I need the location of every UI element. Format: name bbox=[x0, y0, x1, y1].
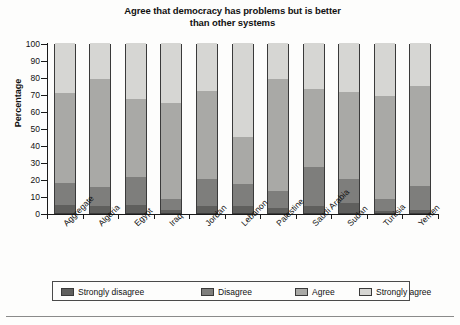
y-tick-label: 80 bbox=[16, 73, 40, 83]
y-tick-label: 60 bbox=[16, 107, 40, 117]
stacked-bar[interactable] bbox=[409, 44, 431, 214]
stacked-bar[interactable] bbox=[89, 44, 111, 214]
x-tick-mark bbox=[296, 214, 297, 219]
bar-segment[interactable] bbox=[268, 79, 288, 191]
legend-swatch bbox=[201, 288, 214, 296]
bar-segment[interactable] bbox=[55, 43, 75, 93]
chart-figure: Agree that democracy has problems but is… bbox=[0, 0, 460, 325]
y-tick-mark bbox=[41, 61, 47, 62]
stacked-bar[interactable] bbox=[54, 44, 76, 214]
y-tick-label: 70 bbox=[16, 90, 40, 100]
plot-area bbox=[47, 44, 438, 214]
y-tick-mark bbox=[41, 129, 47, 130]
bar-segment[interactable] bbox=[197, 91, 217, 179]
legend-swatch bbox=[359, 288, 372, 296]
bar-segment[interactable] bbox=[55, 93, 75, 183]
bar-segment[interactable] bbox=[161, 199, 181, 209]
y-tick-mark bbox=[41, 95, 47, 96]
legend-swatch bbox=[61, 288, 74, 296]
stacked-bar[interactable] bbox=[232, 44, 254, 214]
legend-item[interactable]: Disagree bbox=[201, 286, 252, 298]
bar-segment[interactable] bbox=[233, 137, 253, 185]
bar-segment[interactable] bbox=[375, 96, 395, 200]
bar-segment[interactable] bbox=[161, 103, 181, 200]
bar-segment[interactable] bbox=[161, 43, 181, 103]
page-divider bbox=[6, 316, 454, 317]
y-tick-mark bbox=[41, 78, 47, 79]
bar-segment[interactable] bbox=[339, 92, 359, 179]
stacked-bar[interactable] bbox=[374, 44, 396, 214]
y-tick-mark bbox=[41, 112, 47, 113]
bar-segment[interactable] bbox=[268, 43, 288, 79]
x-tick-mark bbox=[225, 214, 226, 219]
legend-label: Disagree bbox=[218, 287, 252, 297]
y-tick-mark bbox=[41, 180, 47, 181]
y-tick-label: 0 bbox=[16, 209, 40, 219]
y-tick-label: 20 bbox=[16, 175, 40, 185]
bar-segment[interactable] bbox=[90, 79, 110, 187]
x-tick-mark bbox=[154, 214, 155, 219]
chart-legend: Strongly disagreeDisagreeAgreeStrongly a… bbox=[52, 281, 410, 301]
stacked-bar[interactable] bbox=[125, 44, 147, 214]
y-tick-label: 10 bbox=[16, 192, 40, 202]
bar-segment[interactable] bbox=[197, 43, 217, 91]
legend-item[interactable]: Strongly agree bbox=[359, 286, 431, 298]
stacked-bar[interactable] bbox=[303, 44, 325, 214]
y-tick-label: 90 bbox=[16, 56, 40, 66]
stacked-bar[interactable] bbox=[196, 44, 218, 214]
y-tick-label: 50 bbox=[16, 124, 40, 134]
bar-segment[interactable] bbox=[233, 43, 253, 137]
bar-segment[interactable] bbox=[410, 186, 430, 210]
legend-label: Strongly disagree bbox=[78, 287, 144, 297]
bar-segment[interactable] bbox=[126, 43, 146, 99]
y-tick-label: 100 bbox=[16, 39, 40, 49]
legend-label: Strongly agree bbox=[376, 287, 431, 297]
bar-segment[interactable] bbox=[304, 89, 324, 167]
x-tick-mark bbox=[438, 214, 439, 219]
chart-title: Agree that democracy has problems but is… bbox=[60, 5, 405, 29]
y-tick-label: 30 bbox=[16, 158, 40, 168]
bar-segment[interactable] bbox=[339, 43, 359, 92]
x-tick-mark bbox=[189, 214, 190, 219]
bar-segment[interactable] bbox=[268, 191, 288, 208]
x-tick-mark bbox=[402, 214, 403, 219]
bar-segment[interactable] bbox=[90, 187, 110, 207]
y-tick-mark bbox=[41, 44, 47, 45]
bar-segment[interactable] bbox=[126, 99, 146, 177]
y-tick-label: 40 bbox=[16, 141, 40, 151]
bar-segment[interactable] bbox=[197, 179, 217, 206]
y-tick-mark bbox=[41, 197, 47, 198]
stacked-bar[interactable] bbox=[267, 44, 289, 214]
legend-item[interactable]: Agree bbox=[295, 286, 335, 298]
bar-segment[interactable] bbox=[410, 43, 430, 86]
bar-segment[interactable] bbox=[304, 167, 324, 206]
x-tick-mark bbox=[47, 214, 48, 219]
chart-title-line-2: than other systems bbox=[60, 17, 405, 29]
legend-swatch bbox=[295, 288, 308, 296]
legend-item[interactable]: Strongly disagree bbox=[61, 286, 144, 298]
bar-segment[interactable] bbox=[410, 86, 430, 186]
bar-segment[interactable] bbox=[233, 184, 253, 206]
y-axis-tick-labels: 0102030405060708090100 bbox=[10, 44, 40, 214]
bar-segment[interactable] bbox=[90, 43, 110, 79]
y-tick-mark bbox=[41, 163, 47, 164]
x-tick-mark bbox=[367, 214, 368, 219]
bar-segment[interactable] bbox=[126, 177, 146, 204]
x-tick-mark bbox=[331, 214, 332, 219]
x-tick-mark bbox=[260, 214, 261, 219]
x-tick-mark bbox=[118, 214, 119, 219]
bar-segment[interactable] bbox=[304, 43, 324, 89]
stacked-bar[interactable] bbox=[160, 44, 182, 214]
x-tick-mark bbox=[83, 214, 84, 219]
y-tick-mark bbox=[41, 146, 47, 147]
bar-segment[interactable] bbox=[375, 43, 395, 96]
chart-title-line-1: Agree that democracy has problems but is… bbox=[60, 5, 405, 17]
legend-label: Agree bbox=[312, 287, 335, 297]
bar-segment[interactable] bbox=[55, 183, 75, 205]
